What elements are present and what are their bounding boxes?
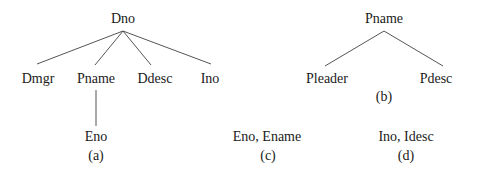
- node-pname-root: Pname: [365, 11, 403, 27]
- edge-dno-dmgr: [37, 31, 123, 64]
- node-pname: Pname: [77, 71, 115, 87]
- node-eno-ename: Eno, Ename: [233, 129, 301, 145]
- edge-pname-pdesc: [384, 31, 443, 66]
- caption-d: (d): [398, 148, 414, 164]
- caption-b: (b): [376, 89, 392, 105]
- edge-pname-pleader: [325, 31, 384, 66]
- node-eno: Eno: [85, 129, 108, 145]
- node-ddesc: Ddesc: [138, 71, 173, 87]
- node-dmgr: Dmgr: [22, 71, 55, 87]
- node-ino: Ino: [201, 71, 220, 87]
- node-ino-idesc: Ino, Idesc: [378, 129, 433, 145]
- caption-a: (a): [88, 148, 104, 164]
- node-dno: Dno: [111, 11, 135, 27]
- node-pleader: Pleader: [306, 71, 348, 87]
- node-pdesc: Pdesc: [420, 71, 453, 87]
- caption-c: (c): [260, 148, 276, 164]
- dependency-trees-figure: Dno Dmgr Pname Ddesc Ino Eno (a) Pname P…: [0, 0, 479, 174]
